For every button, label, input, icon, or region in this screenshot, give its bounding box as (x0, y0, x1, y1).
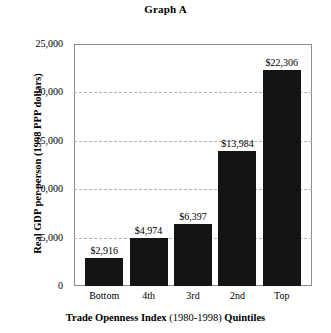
chart-title: Graph A (0, 3, 331, 15)
y-axis-tick-label: 5,000 (5, 233, 63, 243)
y-axis-tick-label: 10,000 (5, 184, 63, 194)
y-axis-tick-label: 20,000 (5, 87, 63, 97)
x-axis-tick-label: Top (247, 290, 317, 301)
bar-value-label: $4,974 (114, 225, 184, 236)
graph-a-chart: Graph A Real GDP per person (1998 PPP do… (0, 0, 331, 333)
bar-value-label: $6,397 (158, 211, 228, 222)
x-axis-title: Trade Openness Index (1980-1998) Quintil… (0, 312, 331, 323)
bar-value-label: $2,916 (69, 245, 139, 256)
y-axis-tick-label: 0 (5, 281, 63, 291)
y-axis-tick-label: 15,000 (5, 136, 63, 146)
bar-value-label: $13,984 (202, 138, 272, 149)
x-axis-title-trail: Quintiles (224, 312, 265, 323)
x-axis-title-lead: Trade Openness Index (66, 312, 167, 323)
y-axis-tick-label: 25,000 (5, 39, 63, 49)
bar-value-label: $22,306 (247, 57, 317, 68)
y-axis-title: Real GDP per person (1998 PPP dollars) (32, 44, 43, 284)
bar (263, 70, 301, 286)
bar (85, 258, 123, 286)
x-axis-title-period: (1980-1998) (169, 312, 222, 323)
